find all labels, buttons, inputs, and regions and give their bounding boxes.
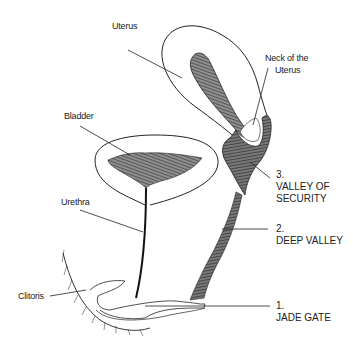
clitoris-leader bbox=[50, 290, 86, 296]
labia-outline bbox=[90, 281, 205, 319]
stage-1-line1: JADE GATE bbox=[276, 312, 331, 324]
urethra-leader bbox=[80, 210, 143, 232]
vaginal-canal bbox=[190, 192, 242, 300]
label-bladder: Bladder bbox=[64, 111, 94, 122]
stage-3-number: 3. bbox=[276, 169, 284, 181]
stage-2-number: 2. bbox=[276, 223, 284, 235]
label-neck-line2: Uterus bbox=[275, 65, 300, 76]
label-neck-line1: Neck of the bbox=[265, 53, 308, 64]
uterus-leader bbox=[128, 50, 182, 78]
label-urethra: Urethra bbox=[61, 197, 90, 208]
diagram-canvas: Uterus Neck of the Uterus Bladder Urethr… bbox=[0, 0, 353, 358]
stage-2-line1: DEEP VALLEY bbox=[276, 235, 343, 247]
stage-3-line1: VALLEY OF bbox=[276, 181, 330, 193]
bladder-fill bbox=[108, 153, 202, 188]
bladder-leader bbox=[80, 126, 130, 155]
label-uterus: Uterus bbox=[112, 21, 137, 32]
stage-3-line2: SECURITY bbox=[276, 193, 327, 205]
label-clitoris: Clitoris bbox=[18, 291, 44, 302]
stage-1-number: 1. bbox=[276, 300, 284, 312]
